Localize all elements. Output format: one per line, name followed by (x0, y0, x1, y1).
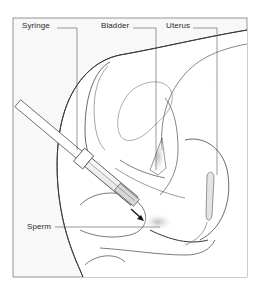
sperm-label: Sperm (27, 223, 51, 231)
syringe-label: Syringe (22, 22, 50, 30)
anatomy-illustration (0, 0, 258, 290)
sperm-region (142, 213, 174, 231)
bladder-label: Bladder (101, 22, 129, 30)
uterus-label: Uterus (166, 22, 190, 30)
insemination-diagram: Syringe Bladder Uterus Sperm (0, 0, 258, 290)
